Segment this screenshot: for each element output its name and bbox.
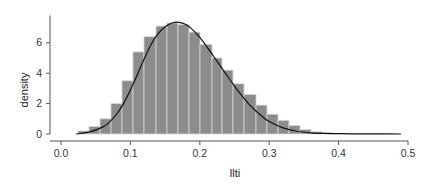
x-tick-label: 0.3: [262, 147, 277, 159]
y-tick-label: 2: [36, 97, 42, 109]
histogram-bar: [144, 37, 156, 134]
histogram-bar: [222, 70, 233, 134]
y-tick-label: 4: [36, 67, 42, 79]
y-tick-label: 0: [36, 128, 42, 140]
x-tick-label: 0.2: [192, 147, 207, 159]
histogram-bar: [100, 119, 111, 134]
histogram-bar: [167, 23, 178, 134]
histogram-bar: [156, 26, 167, 134]
x-tick-label: 0.4: [331, 147, 346, 159]
x-tick-label: 0.0: [54, 147, 69, 159]
histogram-chart: 0246 0.00.10.20.30.40.5 llti density: [0, 0, 430, 187]
y-axis-title: density: [18, 72, 30, 107]
x-axis-title: llti: [230, 167, 240, 179]
histogram-bar: [200, 44, 212, 134]
x-tick-label: 0.5: [401, 147, 416, 159]
histogram-bar: [189, 32, 200, 134]
histogram-bar: [178, 25, 189, 134]
histogram-bar: [267, 114, 278, 134]
x-axis: 0.00.10.20.30.40.5: [50, 141, 415, 159]
histogram-bar: [212, 58, 222, 134]
y-tick-label: 6: [36, 36, 42, 48]
x-tick-label: 0.1: [123, 147, 138, 159]
histogram-bars: [78, 23, 333, 134]
y-axis: 0246: [36, 15, 50, 139]
